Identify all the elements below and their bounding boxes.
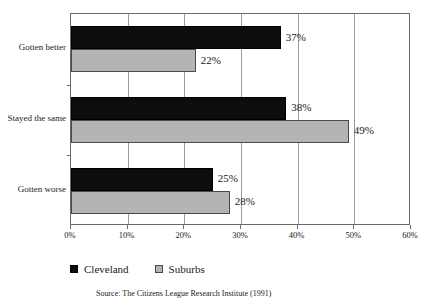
- category-band: 25%28%: [71, 155, 409, 226]
- x-axis-tick-label: 60%: [402, 231, 418, 240]
- x-axis-tick: [353, 225, 354, 229]
- x-axis-tick-label: 30%: [232, 231, 248, 240]
- bar-value-label: 25%: [218, 173, 238, 184]
- bar: [71, 97, 286, 120]
- bar-chart-figure: Gotten betterStayed the sameGotten worse…: [0, 0, 429, 308]
- bar: [71, 49, 196, 72]
- bar: [71, 120, 349, 143]
- x-axis: 0%10%20%30%40%50%60%: [70, 225, 410, 247]
- plot-area: 37%22%38%49%25%28%: [70, 13, 410, 225]
- category-label: Stayed the same: [8, 114, 66, 123]
- x-axis-tick-label: 10%: [119, 231, 135, 240]
- category-band: 38%49%: [71, 85, 409, 156]
- bar: [71, 26, 281, 49]
- category-axis-labels: Gotten betterStayed the sameGotten worse: [0, 13, 66, 225]
- x-axis-tick: [297, 225, 298, 229]
- x-axis-tick-label: 0%: [64, 231, 75, 240]
- legend-label: Cleveland: [84, 264, 129, 275]
- x-axis-tick-label: 20%: [176, 231, 192, 240]
- legend-swatch-icon: [70, 265, 78, 273]
- bar: [71, 168, 213, 191]
- category-band: 37%22%: [71, 14, 409, 85]
- category-tick: [67, 85, 71, 86]
- x-axis-tick-label: 50%: [346, 231, 362, 240]
- legend-swatch-icon: [155, 265, 163, 273]
- x-axis-tick: [127, 225, 128, 229]
- category-label: Gotten better: [19, 43, 66, 52]
- chart-legend: ClevelandSuburbs: [70, 260, 231, 278]
- bar-value-label: 37%: [286, 32, 306, 43]
- legend-label: Suburbs: [169, 264, 205, 275]
- bar-value-label: 49%: [354, 125, 374, 136]
- x-axis-tick: [183, 225, 184, 229]
- x-axis-tick-label: 40%: [289, 231, 305, 240]
- x-axis-tick: [240, 225, 241, 229]
- bar-value-label: 22%: [201, 55, 221, 66]
- bar-value-label: 38%: [291, 102, 311, 113]
- legend-entry: Cleveland: [70, 264, 129, 275]
- bar-value-label: 28%: [235, 196, 255, 207]
- source-note: Source: The Citizens League Research Ins…: [96, 290, 271, 298]
- x-axis-tick: [70, 225, 71, 229]
- category-label: Gotten worse: [18, 185, 66, 194]
- legend-entry: Suburbs: [155, 264, 205, 275]
- category-tick: [67, 155, 71, 156]
- x-axis-tick: [410, 225, 411, 229]
- bar: [71, 191, 230, 214]
